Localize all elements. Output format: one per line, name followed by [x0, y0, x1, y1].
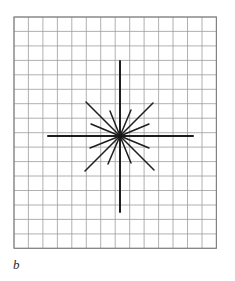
grid-lines: [14, 17, 216, 248]
star-diagram-canvas: [0, 0, 235, 281]
figure-panel: [0, 0, 235, 281]
ray-sw: [85, 136, 120, 171]
ray-ne: [120, 103, 153, 136]
star-center-point: [118, 134, 122, 138]
figure-label: b: [13, 258, 20, 271]
ray-se: [120, 136, 154, 170]
